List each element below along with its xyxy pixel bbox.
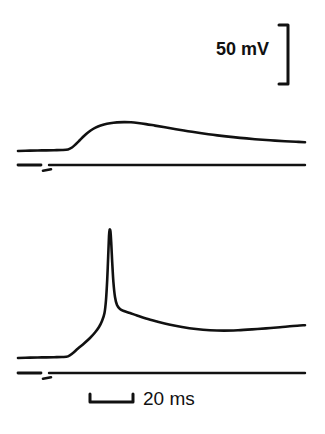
upper-trace-subthreshold xyxy=(18,122,305,151)
upper-stimulus-artifact-tick xyxy=(43,169,51,171)
lower-trace-action-potential xyxy=(18,229,305,358)
horizontal-scale-bar xyxy=(90,394,133,402)
electrophysiology-figure: 50 mV 20 ms xyxy=(0,0,325,434)
vertical-scale-bar-label: 50 mV xyxy=(216,39,269,60)
horizontal-scale-bar-label: 20 ms xyxy=(143,388,195,410)
vertical-scale-bar xyxy=(279,25,288,84)
lower-stimulus-artifact-tick xyxy=(43,377,51,379)
trace-plot-canvas xyxy=(0,0,325,434)
